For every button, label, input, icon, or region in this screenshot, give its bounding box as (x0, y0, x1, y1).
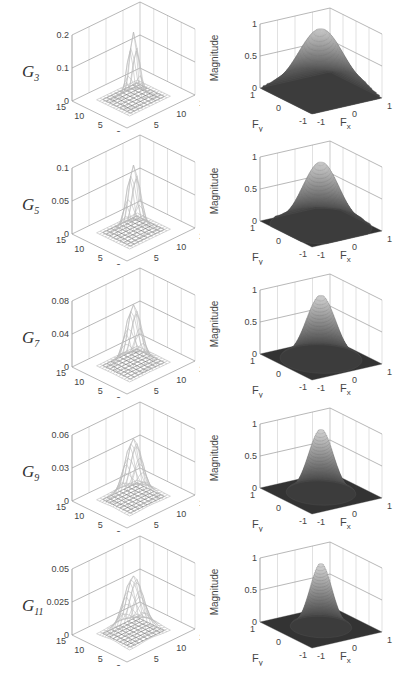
frequency-response-plot: Magnitude10.5010-1-101FyFx (200, 534, 405, 666)
fy-tick-label: -1 (299, 116, 307, 126)
fx-tick-label: 0 (352, 242, 357, 252)
frequency-response-plot: Magnitude10.5010-1-101FyFx (200, 0, 405, 132)
fy-axis-label: Fy (252, 384, 263, 398)
z-tick-label: 0.5 (244, 184, 257, 194)
y-tick-label: 15 (56, 102, 66, 112)
spatial-kernel-plot: 0.050.0250051015051015 (0, 534, 200, 666)
fx-axis-label: Fx (340, 650, 351, 665)
fx-tick-label: 1 (387, 234, 392, 244)
x-tick-label: 0 (131, 264, 136, 265)
fx-tick-label: 1 (387, 635, 392, 645)
fy-tick-label: 1 (250, 223, 255, 233)
fy-axis-label: Fy (252, 251, 263, 265)
z-tick-label: 1 (252, 19, 257, 29)
fy-tick-label: 1 (250, 624, 255, 634)
fy-tick-label: 0 (276, 637, 281, 647)
fx-axis-label: Fx (340, 516, 351, 531)
y-tick-label: 15 (56, 368, 66, 378)
figure-row-G11: G110.050.0250051015051015Magnitude10.501… (0, 534, 405, 666)
fy-tick-label: -1 (299, 382, 307, 392)
fx-tick-label: 0 (352, 109, 357, 119)
y-tick-label: 10 (74, 645, 84, 655)
fx-tick-label: 0 (352, 509, 357, 519)
fx-tick-label: -1 (317, 250, 325, 260)
figure-row-G5: G50.10.050051015051015Magnitude10.5010-1… (0, 133, 405, 265)
z-axis-label: Magnitude (209, 300, 220, 347)
z-tick-label: 0.1 (56, 63, 69, 73)
fy-tick-label: 0 (276, 236, 281, 246)
x-tick-label: 0 (131, 531, 136, 532)
z-tick-label: 0.03 (51, 463, 69, 473)
y-tick-label: 10 (74, 244, 84, 254)
fy-tick-label: -1 (299, 516, 307, 526)
fx-tick-label: 1 (387, 501, 392, 511)
z-tick-label: 1 (252, 152, 257, 162)
y-tick-label: 0 (116, 529, 121, 532)
fy-tick-label: 0 (276, 503, 281, 513)
frequency-response-plot: Magnitude10.5010-1-101FyFx (200, 266, 405, 398)
y-tick-label: 0 (116, 663, 121, 666)
frequency-response-plot: Magnitude10.5010-1-101FyFx (200, 400, 405, 532)
x-tick-label: 10 (176, 242, 186, 252)
x-tick-label: 5 (154, 386, 159, 396)
spatial-kernel-plot: 0.20.10051015051015 (0, 0, 200, 132)
fx-axis-label: Fx (340, 116, 351, 131)
y-tick-label: 5 (98, 120, 103, 130)
frequency-response-plot: Magnitude10.5010-1-101FyFx (200, 133, 405, 265)
z-tick-label: 0.5 (244, 451, 257, 461)
x-tick-label: 0 (131, 131, 136, 132)
y-tick-label: 5 (98, 253, 103, 263)
z-tick-label: 1 (252, 419, 257, 429)
fy-tick-label: 0 (276, 369, 281, 379)
z-axis-label: Magnitude (209, 434, 220, 481)
fy-tick-label: 0 (276, 103, 281, 113)
fx-tick-label: -1 (317, 517, 325, 527)
z-tick-label: 0.08 (51, 296, 69, 306)
z-tick-label: 0.1 (56, 163, 69, 173)
fx-axis-label: Fx (340, 382, 351, 397)
x-tick-label: 10 (176, 643, 186, 653)
fy-tick-label: 1 (250, 90, 255, 100)
z-tick-label: 1 (252, 285, 257, 295)
z-tick-label: 0.025 (46, 597, 69, 607)
x-tick-label: 10 (176, 375, 186, 385)
fy-tick-label: -1 (299, 249, 307, 259)
z-tick-label: 0.5 (244, 317, 257, 327)
fy-tick-label: 1 (250, 356, 255, 366)
fx-tick-label: 0 (352, 643, 357, 653)
spatial-kernel-plot: 0.10.050051015051015 (0, 133, 200, 265)
y-tick-label: 15 (56, 636, 66, 646)
z-tick-label: 0.5 (244, 51, 257, 61)
x-tick-label: 5 (154, 654, 159, 664)
x-tick-label: 5 (154, 120, 159, 130)
y-tick-label: 15 (56, 235, 66, 245)
z-tick-label: 0.06 (51, 430, 69, 440)
z-tick-label: 0.04 (51, 329, 69, 339)
figure-row-G7: G70.080.040051015051015Magnitude10.5010-… (0, 266, 405, 398)
y-tick-label: 15 (56, 502, 66, 512)
y-tick-label: 0 (116, 262, 121, 265)
y-tick-label: 10 (74, 377, 84, 387)
y-tick-label: 5 (98, 386, 103, 396)
z-tick-label: 0.05 (51, 564, 69, 574)
y-tick-label: 5 (98, 520, 103, 530)
spatial-kernel-plot: 0.060.030051015051015 (0, 400, 200, 532)
z-tick-label: 0.5 (244, 585, 257, 595)
fy-tick-label: -1 (299, 650, 307, 660)
fx-tick-label: -1 (317, 117, 325, 127)
x-tick-label: 10 (176, 509, 186, 519)
fy-axis-label: Fy (252, 518, 263, 532)
fx-tick-label: 1 (387, 367, 392, 377)
y-tick-label: 10 (74, 511, 84, 521)
z-axis-label: Magnitude (209, 568, 220, 615)
figure-row-G3: G30.20.10051015051015Magnitude10.5010-1-… (0, 0, 405, 132)
z-axis-label: Magnitude (209, 167, 220, 214)
fx-tick-label: 1 (387, 101, 392, 111)
y-tick-label: 0 (116, 129, 121, 132)
y-tick-label: 5 (98, 654, 103, 664)
x-tick-label: 5 (154, 253, 159, 263)
z-tick-label: 1 (252, 553, 257, 563)
fy-axis-label: Fy (252, 652, 263, 666)
x-tick-label: 10 (176, 109, 186, 119)
x-tick-label: 0 (131, 397, 136, 398)
